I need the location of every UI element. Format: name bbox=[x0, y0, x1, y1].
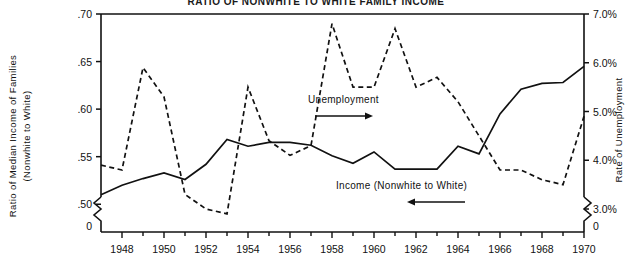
right-axis-title: Rate of Unemployment bbox=[613, 77, 624, 182]
unemployment-annotation-label: Unemployment bbox=[308, 94, 379, 105]
x-tick-label-1968: 1968 bbox=[530, 243, 554, 255]
chart-canvas: .70.65.60.55.5007.0%6.0%5.0%4.0%3.0%0194… bbox=[0, 0, 632, 271]
left-tick-label-0: 0 bbox=[86, 220, 92, 232]
x-tick-label-1950: 1950 bbox=[152, 243, 176, 255]
left-axis-title: Ratio of Median Income of Families bbox=[7, 55, 18, 218]
left-tick-label-.60: .60 bbox=[77, 103, 92, 115]
chart-root: RATIO OF NONWHITE TO WHITE FAMILY INCOME… bbox=[0, 0, 632, 271]
x-tick-label-1964: 1964 bbox=[446, 243, 470, 255]
left-tick-label-.55: .55 bbox=[77, 151, 92, 163]
x-tick-label-1952: 1952 bbox=[194, 243, 218, 255]
x-tick-label-1956: 1956 bbox=[278, 243, 302, 255]
x-tick-label-1962: 1962 bbox=[404, 243, 428, 255]
income-annotation-label: Income (Nonwhite to White) bbox=[336, 180, 467, 191]
right-axis-break-icon bbox=[584, 197, 591, 232]
series-line-income bbox=[101, 66, 584, 194]
x-tick-label-1954: 1954 bbox=[236, 243, 260, 255]
left-axis-break-icon bbox=[94, 197, 101, 232]
x-tick-label-1966: 1966 bbox=[488, 243, 512, 255]
right-arrow-icon bbox=[365, 113, 373, 120]
left-tick-label-.70: .70 bbox=[77, 8, 92, 20]
x-tick-label-1958: 1958 bbox=[320, 243, 344, 255]
right-tick-label-3.0%: 3.0% bbox=[593, 203, 617, 215]
x-tick-label-1970: 1970 bbox=[572, 243, 596, 255]
x-tick-label-1960: 1960 bbox=[362, 243, 386, 255]
right-tick-label-0: 0 bbox=[593, 220, 599, 232]
left-tick-label-.50: .50 bbox=[77, 198, 92, 210]
left-tick-label-.65: .65 bbox=[77, 56, 92, 68]
left-axis-subtitle: (Nonwhite to White) bbox=[21, 90, 32, 181]
right-tick-label-6.0%: 6.0% bbox=[593, 57, 617, 69]
x-tick-label-1948: 1948 bbox=[110, 243, 134, 255]
left-arrow-icon bbox=[407, 199, 415, 206]
right-tick-label-7.0%: 7.0% bbox=[593, 8, 617, 20]
